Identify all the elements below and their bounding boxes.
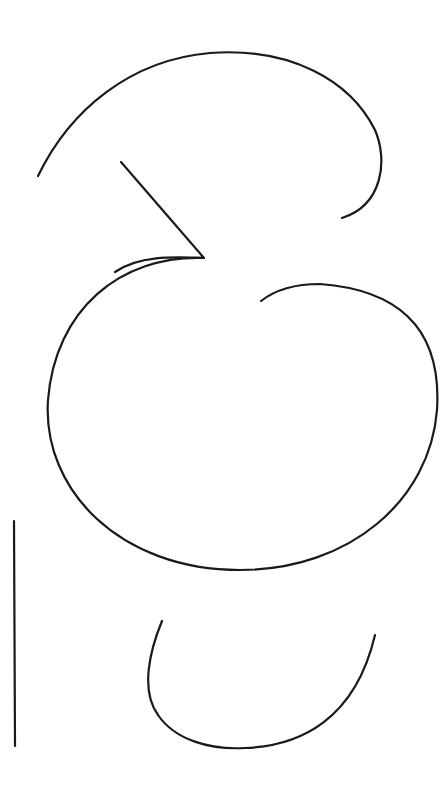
drawing-canvas	[0, 0, 445, 788]
big-loop	[48, 258, 438, 570]
top-arc	[38, 52, 381, 218]
bottom-u	[148, 621, 375, 748]
vertical-line	[14, 521, 15, 746]
sketch-svg	[0, 0, 445, 788]
diagonal-line	[115, 162, 204, 272]
